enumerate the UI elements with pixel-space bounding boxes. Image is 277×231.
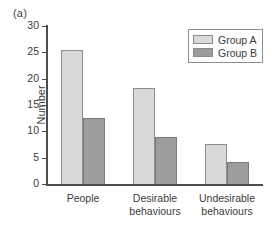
legend-swatch-group-b	[193, 48, 213, 57]
y-tick-label: 10	[27, 124, 39, 137]
y-tick-mark	[42, 184, 47, 185]
bar-group: Desirablebehaviours	[119, 26, 191, 184]
y-tick-label: 25	[27, 45, 39, 58]
y-tick-label: 30	[27, 19, 39, 32]
bar-pair	[119, 26, 191, 184]
bar-group-a[interactable]	[133, 88, 155, 184]
bar-pair	[47, 26, 119, 184]
legend: Group A Group B	[188, 29, 263, 63]
legend-item: Group A	[193, 33, 257, 46]
panel-label: (a)	[13, 7, 27, 19]
bar-group-a[interactable]	[61, 50, 83, 184]
bar-group-a[interactable]	[205, 144, 227, 184]
y-tick-label: 20	[27, 72, 39, 85]
y-tick-label: 0	[33, 177, 39, 190]
legend-label-group-b: Group B	[218, 47, 257, 59]
y-tick-label: 5	[33, 151, 39, 164]
x-tick-label: Desirablebehaviours	[129, 192, 180, 217]
y-tick-label: 15	[27, 98, 39, 111]
bar-chart-figure: (a) Number 051015202530 PeopleDesirableb…	[0, 0, 277, 231]
x-tick-label: People	[67, 192, 100, 205]
bar-group-b[interactable]	[155, 137, 177, 184]
bar-group: People	[47, 26, 119, 184]
bar-group-b[interactable]	[83, 118, 105, 184]
bar-group-b[interactable]	[227, 162, 249, 184]
legend-item: Group B	[193, 46, 257, 59]
x-axis-line	[46, 184, 263, 186]
legend-swatch-group-a	[193, 35, 213, 44]
x-tick-label: Undesirablebehaviours	[199, 192, 255, 217]
legend-label-group-a: Group A	[218, 34, 257, 46]
